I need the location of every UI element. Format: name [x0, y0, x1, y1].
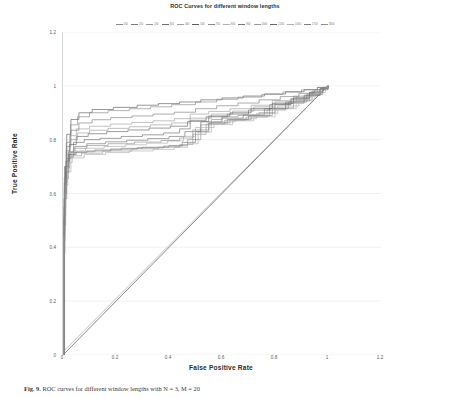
legend-label: 200: [154, 23, 158, 26]
x-tick-label: 0.2: [112, 355, 118, 360]
legend-swatch-icon: [116, 24, 123, 25]
legend-swatch-icon: [287, 24, 294, 25]
legend-label: 300: [170, 23, 174, 26]
legend-swatch-icon: [238, 24, 245, 25]
plot-area: [62, 32, 380, 355]
x-tick-label: 1: [326, 355, 329, 360]
legend-label: 150: [139, 23, 143, 26]
y-tick-label: 0: [53, 353, 56, 358]
legend-item[interactable]: 1200: [270, 23, 284, 26]
legend-swatch-icon: [192, 24, 199, 25]
legend-label: 800: [231, 23, 235, 26]
caption-label: Fig. 9.: [24, 385, 41, 392]
legend-label: 500: [200, 23, 204, 26]
legend-swatch-icon: [208, 24, 215, 25]
chart-legend: 1001502003004005007508009001000120014001…: [0, 20, 450, 29]
roc-curves-plot: [63, 32, 381, 355]
legend-item[interactable]: 200: [146, 23, 158, 26]
legend-item[interactable]: 1400: [287, 23, 301, 26]
y-tick-label: 0.6: [50, 191, 56, 196]
chart-title: ROC Curves for different window lengths: [0, 3, 450, 9]
legend-label: 400: [185, 23, 189, 26]
y-tick-label: 0.4: [50, 245, 56, 250]
legend-swatch-icon: [304, 24, 311, 25]
legend-swatch-icon: [321, 24, 328, 25]
legend-label: 1200: [278, 23, 284, 26]
x-tick-label: 0.8: [271, 355, 277, 360]
legend-label: 1800: [329, 23, 335, 26]
figure-container: ROC Curves for different window lengths …: [0, 0, 450, 398]
legend-item[interactable]: 1700: [304, 23, 318, 26]
x-axis-title: False Positive Rate: [62, 364, 380, 371]
legend-swatch-icon: [131, 24, 138, 25]
legend-swatch-icon: [270, 24, 277, 25]
legend-swatch-icon: [254, 24, 261, 25]
y-tick-label: 1.2: [50, 30, 56, 35]
legend-item[interactable]: 1800: [321, 23, 335, 26]
legend-swatch-icon: [146, 24, 153, 25]
x-tick-label: 0: [61, 355, 64, 360]
legend-item[interactable]: 150: [131, 23, 143, 26]
legend-label: 750: [216, 23, 220, 26]
x-tick-label: 1.2: [377, 355, 383, 360]
legend-item[interactable]: 800: [223, 23, 235, 26]
legend-item[interactable]: 300: [162, 23, 174, 26]
legend-label: 900: [246, 23, 250, 26]
y-tick-label: 0.8: [50, 137, 56, 142]
legend-item[interactable]: 750: [208, 23, 220, 26]
legend-item[interactable]: 1000: [254, 23, 268, 26]
figure-caption: Fig. 9. ROC curves for different window …: [24, 385, 434, 393]
legend-swatch-icon: [162, 24, 169, 25]
legend-label: 100: [124, 23, 128, 26]
legend-item[interactable]: 500: [192, 23, 204, 26]
y-tick-label: 1: [53, 83, 56, 88]
y-tick-label: 0.2: [50, 299, 56, 304]
legend-item[interactable]: 100: [116, 23, 128, 26]
x-tick-label: 0.4: [165, 355, 171, 360]
legend-label: 1000: [262, 23, 268, 26]
legend-label: 1400: [295, 23, 301, 26]
legend-item[interactable]: 400: [177, 23, 189, 26]
caption-text: ROC curves for different window lengths …: [42, 385, 199, 392]
y-axis-ticklabels: 00.20.40.60.811.2: [0, 32, 60, 355]
x-tick-label: 0.6: [218, 355, 224, 360]
legend-label: 1700: [312, 23, 318, 26]
legend-item[interactable]: 900: [238, 23, 250, 26]
legend-swatch-icon: [223, 24, 230, 25]
legend-swatch-icon: [177, 24, 184, 25]
